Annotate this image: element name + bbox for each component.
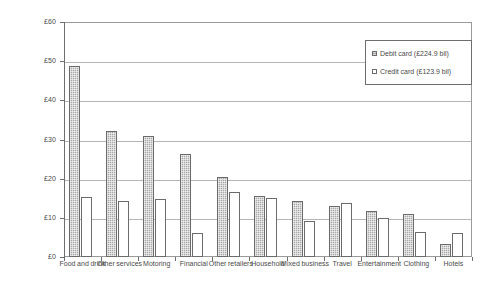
bar-credit [192,233,203,257]
y-axis-tick-label: £20 [0,175,56,183]
bar-credit [452,233,463,257]
y-axis-tick-label: £30 [0,136,56,144]
legend-item-debit-card: Debit card (£224.9 bil) [372,48,466,59]
bar-debit [69,66,80,257]
bar-chart: £0£10£20£30£40£50£60 Food and drinkOther… [0,0,499,299]
bar-debit [440,244,451,257]
bar-debit [329,206,340,257]
bar-group [175,22,212,257]
legend-label-credit-card: Credit card (£123.9 bil) [380,68,451,76]
bar-credit [81,197,92,257]
y-axis-tick-label: £10 [0,214,56,222]
bar-debit [143,136,154,257]
y-axis-tick-label: £50 [0,57,56,65]
legend-swatch-debit-icon [372,51,377,56]
bar-debit [106,131,117,258]
bar-credit [415,232,426,257]
y-axis-tick-label: £60 [0,18,56,26]
bar-group [249,22,286,257]
bar-group [64,22,101,257]
bar-credit [378,218,389,257]
x-axis-labels: Food and drinkOther servicesMotoringFina… [64,260,472,296]
bar-debit [217,177,228,257]
bar-credit [341,203,352,257]
bar-group [101,22,138,257]
bar-credit [155,199,166,257]
bar-credit [118,201,129,257]
bar-credit [304,221,315,257]
y-axis-tick-label: £40 [0,96,56,104]
bar-debit [366,211,377,257]
bar-group [287,22,324,257]
bar-group [324,22,361,257]
bar-debit [403,214,414,257]
bar-credit [266,198,277,257]
x-axis-tick-label: Hotels [425,260,483,269]
bar-debit [292,201,303,257]
bar-group [212,22,249,257]
bar-group [138,22,175,257]
bar-debit [180,154,191,257]
y-axis-tick-label: £0 [0,253,56,261]
bar-debit [254,196,265,257]
legend-label-debit-card: Debit card (£224.9 bil) [380,50,449,58]
legend-swatch-credit-icon [372,69,377,74]
legend-item-credit-card: Credit card (£123.9 bil) [372,66,466,77]
chart-legend: Debit card (£224.9 bil) Credit card (£12… [365,40,472,85]
bar-credit [229,192,240,257]
